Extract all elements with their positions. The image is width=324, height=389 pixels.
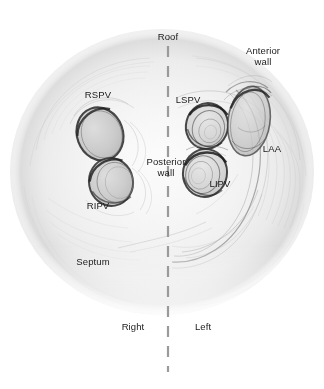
label-right: Right [122,321,145,332]
label-lspv: LSPV [176,94,201,105]
label-left: Left [195,321,211,332]
label-anterior-wall: Anterior wall [246,45,280,67]
label-septum: Septum [76,256,109,267]
figure-canvas: Roof Anterior wall RSPV LSPV LAA Posteri… [0,0,324,389]
label-laa: LAA [263,143,281,154]
label-rspv: RSPV [85,89,111,100]
label-posterior-wall: Posterior wall [147,156,186,178]
label-roof: Roof [158,31,178,42]
label-ripv: RIPV [87,200,110,211]
label-lipv: LIPV [210,178,231,189]
